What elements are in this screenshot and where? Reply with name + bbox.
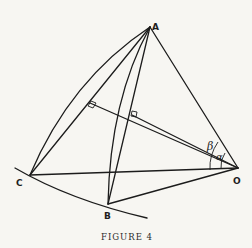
edge-AO xyxy=(150,27,238,168)
point-label-B: B xyxy=(104,211,111,221)
point-label-O: O xyxy=(233,176,241,186)
angle-label-alpha: α xyxy=(216,151,223,162)
edge-BO xyxy=(108,168,238,204)
point-label-A: A xyxy=(152,22,159,32)
point-label-C: C xyxy=(16,178,23,188)
geometry-diagram: A O C B β α FIGURE 4 xyxy=(0,0,252,248)
arc-CB-lower xyxy=(15,168,147,218)
edge-CO xyxy=(30,168,238,175)
angle-label-beta: β xyxy=(206,140,213,153)
figure-caption: FIGURE 4 xyxy=(101,232,153,242)
